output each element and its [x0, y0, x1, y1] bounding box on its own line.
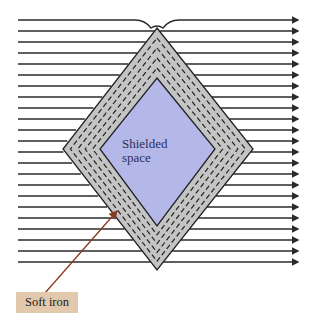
soft-iron-label: Soft iron	[16, 292, 78, 313]
pointer-arrow-icon	[45, 211, 117, 293]
shielded-space-label: Shielded space	[122, 137, 168, 165]
field-line-bent	[18, 20, 298, 28]
